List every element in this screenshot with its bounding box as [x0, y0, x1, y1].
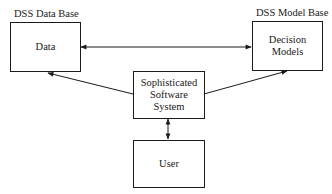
data-box-text: Data	[36, 41, 56, 53]
user-box: User	[133, 140, 205, 188]
data-base-label: DSS Data Base	[14, 8, 79, 19]
decision-models-box: Decision Models	[252, 21, 323, 71]
data-box: Data	[10, 22, 81, 72]
user-text: User	[159, 158, 179, 170]
software-system-text: Sophisticated Software System	[141, 77, 198, 113]
software-data-arrow	[48, 73, 133, 94]
model-base-label: DSS Model Base	[256, 7, 328, 18]
software-system-box: Sophisticated Software System	[133, 71, 205, 119]
software-models-arrow	[204, 71, 287, 94]
decision-models-text: Decision Models	[269, 34, 306, 58]
